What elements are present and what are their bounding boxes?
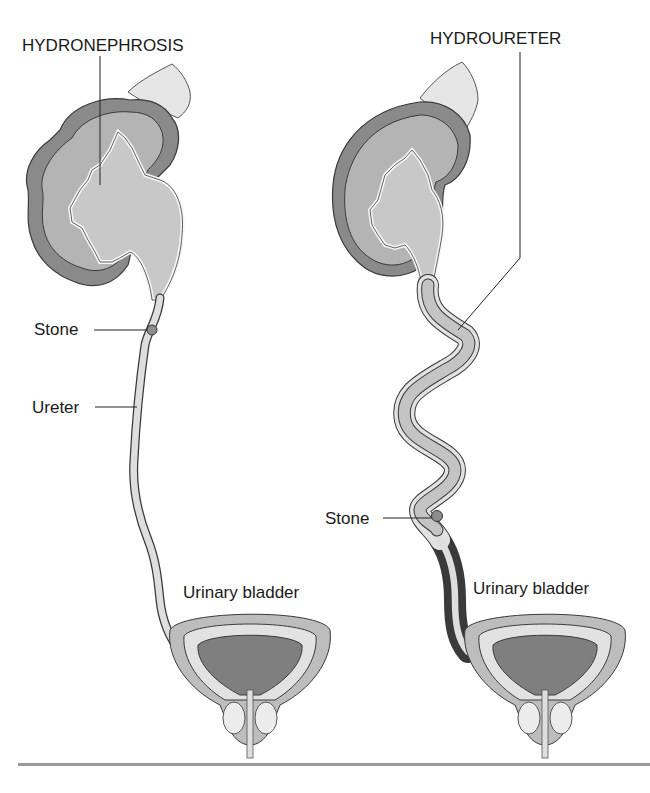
diagram-artwork [0, 0, 650, 793]
left-bladder-label: Urinary bladder [183, 584, 299, 601]
left-stone [147, 325, 157, 335]
right-bladder-label: Urinary bladder [473, 580, 589, 597]
bottom-rule [18, 763, 650, 766]
right-urinary-bladder [465, 614, 626, 758]
left-urinary-bladder [170, 614, 331, 758]
right-kidney-hydroureter [332, 62, 478, 652]
hydronephrosis-label: HYDRONEPHROSIS [22, 37, 184, 54]
left-kidney-hydronephrosis [27, 64, 191, 650]
right-stone-label: Stone [325, 510, 369, 527]
left-stone-label: Stone [34, 321, 78, 338]
ureter-label: Ureter [32, 399, 79, 416]
right-stone [432, 511, 443, 522]
hydroureter-label: HYDROURETER [430, 30, 561, 47]
